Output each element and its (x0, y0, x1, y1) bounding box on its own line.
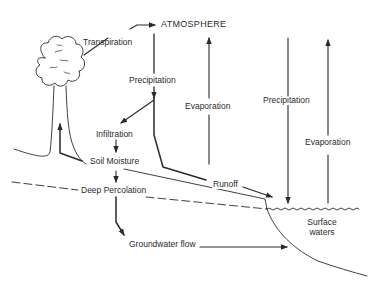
transpiration-label: Transpiration (82, 38, 133, 47)
evaporation-water-label: Evaporation (304, 138, 351, 147)
evaporation-land-label: Evaporation (184, 102, 231, 111)
tree-icon (14, 36, 86, 164)
soil-moisture-label: Soil Moisture (89, 157, 140, 166)
infiltration-arrow (121, 100, 154, 123)
surface-waters-label-line2: waters (298, 228, 346, 237)
runoff-label: Runoff (212, 180, 239, 189)
infiltration-label: Infiltration (95, 130, 134, 139)
surface-water-line (267, 208, 359, 210)
precipitation-water-label: Precipitation (262, 96, 311, 105)
precipitation-land-label: Precipitation (128, 76, 177, 85)
groundwater-flow-label: Groundwater flow (128, 240, 197, 249)
deep-percolation-label: Deep Percolation (80, 186, 147, 195)
atmosphere-label: ATMOSPHERE (160, 20, 227, 29)
surface-waters-label-line1: Surface (298, 218, 346, 227)
soil-to-tree-arrow (60, 124, 82, 161)
percolation-to-groundwater-arrow (116, 197, 124, 235)
